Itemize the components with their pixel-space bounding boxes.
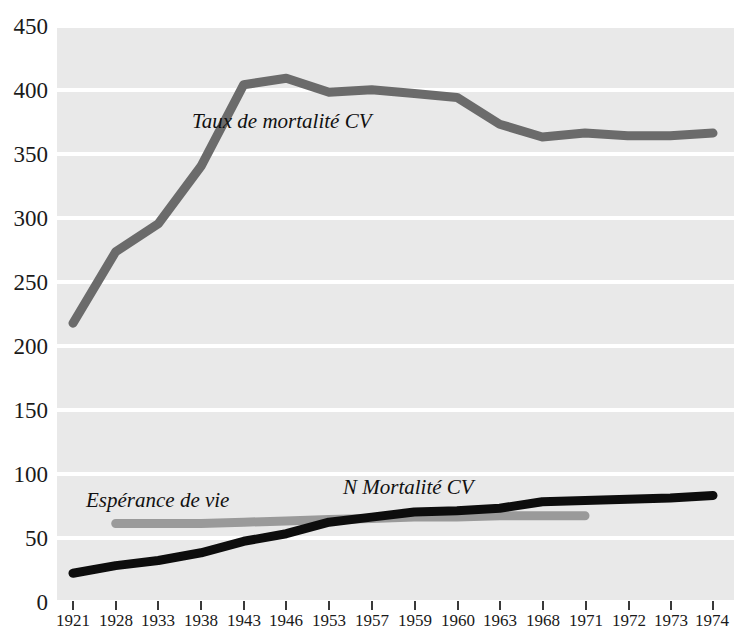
xtick-label-12: 1971: [569, 612, 603, 629]
xtick-label-2: 1933: [141, 612, 175, 629]
gridline-450: [57, 26, 734, 28]
xtick-mark-1973: [670, 601, 672, 610]
gridline-150: [57, 408, 734, 412]
xtick-label-15: 1974: [695, 612, 729, 629]
ytick-label-50: 50: [0, 527, 48, 550]
xtick-mark-1959: [414, 601, 416, 610]
gridline-400: [57, 88, 734, 92]
ytick-label-350: 350: [0, 143, 48, 166]
ytick-label-200: 200: [0, 335, 48, 358]
plot-area: [57, 26, 734, 600]
ytick-label-0: 0: [0, 591, 48, 614]
xtick-label-14: 1973: [654, 612, 688, 629]
xtick-mark-1971: [585, 601, 587, 610]
gridline-350: [57, 152, 734, 156]
xtick-mark-1957: [371, 601, 373, 610]
xtick-mark-1928: [115, 601, 117, 610]
xtick-mark-1968: [542, 601, 544, 610]
xtick-mark-1963: [499, 601, 501, 610]
ytick-label-300: 300: [0, 207, 48, 230]
xtick-mark-1946: [285, 601, 287, 610]
xtick-label-3: 1938: [184, 612, 218, 629]
xtick-label-10: 1963: [483, 612, 517, 629]
xtick-label-7: 1957: [355, 612, 389, 629]
xtick-mark-1974: [712, 601, 714, 610]
series-label-n-mortalite-cv: N Mortalité CV: [343, 477, 474, 498]
chart-figure: 450 400 350 300 250 200 150 100 50 0 Tau…: [0, 0, 734, 635]
ytick-label-250: 250: [0, 271, 48, 294]
xtick-mark-1960: [457, 601, 459, 610]
xtick-mark-1938: [200, 601, 202, 610]
gridline-50: [57, 536, 734, 540]
xtick-mark-1953: [328, 601, 330, 610]
xtick-mark-1921: [72, 601, 74, 610]
xtick-mark-1943: [243, 601, 245, 610]
xtick-label-6: 1953: [312, 612, 346, 629]
gridline-200: [57, 344, 734, 348]
xtick-label-4: 1943: [227, 612, 261, 629]
xtick-label-8: 1959: [398, 612, 432, 629]
xtick-label-9: 1960: [441, 612, 475, 629]
xtick-label-13: 1972: [612, 612, 646, 629]
xtick-label-11: 1968: [526, 612, 560, 629]
xtick-label-1: 1928: [99, 612, 133, 629]
gridline-300: [57, 216, 734, 220]
series-label-esperance-de-vie: Espérance de vie: [86, 490, 229, 511]
xtick-mark-1972: [628, 601, 630, 610]
xtick-label-5: 1946: [269, 612, 303, 629]
ytick-label-150: 150: [0, 399, 48, 422]
xtick-mark-1933: [157, 601, 159, 610]
ytick-label-450: 450: [0, 15, 48, 38]
ytick-label-100: 100: [0, 463, 48, 486]
xtick-label-0: 1921: [56, 612, 90, 629]
ytick-label-400: 400: [0, 79, 48, 102]
gridline-250: [57, 280, 734, 284]
series-label-taux-de-mortalite-cv: Taux de mortalité CV: [192, 111, 371, 132]
